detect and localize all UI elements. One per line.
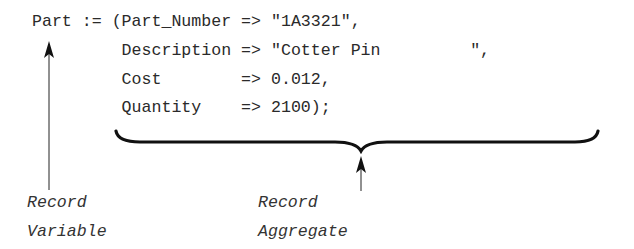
record-variable-arrow-icon <box>44 41 54 190</box>
curly-brace-icon <box>116 131 598 151</box>
record-aggregate-arrow-icon <box>356 156 366 191</box>
record-aggregate-label-line1: Record <box>258 193 318 213</box>
record-aggregate-label-line2: Aggregate <box>258 222 348 242</box>
record-variable-label-line2: Variable <box>27 222 107 242</box>
record-variable-label-line1: Record <box>27 193 87 213</box>
